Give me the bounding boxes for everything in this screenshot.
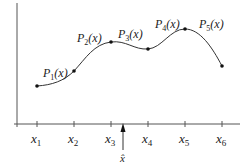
segment-label-p4: P4(x) — [154, 17, 180, 33]
xhat-label: x̂ — [119, 152, 125, 164]
node-6 — [220, 64, 224, 68]
segment-labels: P1(x) P2(x) P3(x) P4(x) P5(x) — [42, 17, 224, 82]
node-3 — [109, 40, 113, 44]
xhat-marker: x̂ — [119, 123, 126, 164]
node-5 — [183, 27, 187, 31]
tick-label-x4: x4 — [141, 131, 153, 148]
tick-label-x1: x1 — [30, 131, 41, 148]
segment-label-p5: P5(x) — [198, 17, 224, 33]
segment-label-p3: P3(x) — [117, 27, 143, 43]
node-1 — [35, 84, 39, 88]
tick-label-x3: x3 — [104, 131, 116, 148]
tick-label-x2: x2 — [67, 131, 78, 148]
node-2 — [72, 69, 76, 73]
node-4 — [146, 47, 150, 51]
x-tick-labels: x1 x2 x3 x4 x5 x6 — [30, 131, 227, 148]
segment-label-p2: P2(x) — [76, 31, 102, 47]
interpolation-diagram: x1 x2 x3 x4 x5 x6 P1(x) P2(x) P3(x) P4(x… — [0, 0, 250, 168]
tick-label-x6: x6 — [215, 131, 227, 148]
segment-label-p1: P1(x) — [42, 66, 68, 82]
tick-label-x5: x5 — [178, 131, 190, 148]
